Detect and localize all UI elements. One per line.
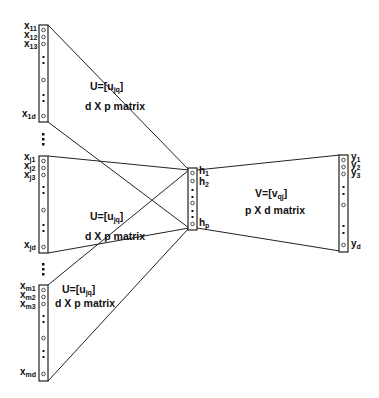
svg-text:V=[vqj]: V=[vqj] — [255, 187, 287, 201]
svg-text:U=[ujq]: U=[ujq] — [90, 210, 123, 224]
svg-text:hp: hp — [199, 217, 209, 230]
svg-text:U=[ujq]: U=[ujq] — [90, 80, 123, 94]
neuron-nodes — [42, 28, 346, 376]
diagram-canvas: x11 x12 x13 x1d xj1 xj2 xj3 xjd xm1 xm2 … — [0, 0, 379, 398]
autoencoder-diagram: x11 x12 x13 x1d xj1 xj2 xj3 xjd xm1 xm2 … — [0, 0, 379, 398]
svg-text:yd: yd — [351, 238, 361, 250]
svg-text:d X p matrix: d X p matrix — [85, 100, 145, 112]
svg-text:x1d: x1d — [22, 108, 36, 120]
svg-text:d X p matrix: d X p matrix — [55, 297, 115, 309]
matrix-labels: U=[ujq] d X p matrix U=[ujq] d X p matri… — [55, 80, 305, 309]
svg-text:p X d matrix: p X d matrix — [245, 204, 305, 216]
svg-text:d X p matrix: d X p matrix — [85, 230, 145, 242]
svg-text:U=[ujq]: U=[ujq] — [62, 283, 95, 297]
svg-text:xmd: xmd — [20, 366, 36, 378]
svg-text:xjd: xjd — [24, 239, 36, 252]
svg-text:h2: h2 — [199, 176, 209, 188]
